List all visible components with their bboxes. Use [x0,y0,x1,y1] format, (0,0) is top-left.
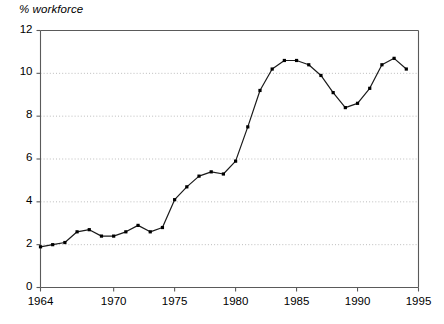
data-point-1988 [332,91,335,94]
y-tick-label-4: 4 [7,194,33,206]
data-point-1967 [75,230,78,233]
data-markers-group [39,57,408,249]
data-point-1987 [319,74,322,77]
y-tick-label-10: 10 [7,65,33,77]
chart-container: % workforce 024681012 196419701975198019… [0,0,444,324]
data-point-1972 [136,224,139,227]
data-point-1984 [283,59,286,62]
data-point-1990 [356,102,359,105]
data-point-1992 [380,63,383,66]
line-chart-plot [0,0,444,324]
data-point-1965 [51,243,54,246]
x-tick-label-1964: 1964 [17,295,65,307]
data-point-1974 [161,226,164,229]
data-point-1973 [149,230,152,233]
data-point-1994 [405,67,408,70]
series-line [41,58,407,246]
y-tick-label-0: 0 [7,280,33,292]
data-point-1975 [173,198,176,201]
data-point-1985 [295,59,298,62]
y-tick-label-8: 8 [7,108,33,120]
data-point-1989 [344,106,347,109]
x-tick-label-1985: 1985 [273,295,321,307]
data-point-1981 [246,125,249,128]
y-tick-label-2: 2 [7,237,33,249]
data-point-1969 [100,235,103,238]
data-point-1970 [112,235,115,238]
gridlines-group [41,73,419,244]
x-tick-label-1990: 1990 [334,295,382,307]
data-point-1976 [185,185,188,188]
x-tick-label-1980: 1980 [212,295,260,307]
data-point-1979 [222,172,225,175]
data-point-1977 [197,175,200,178]
axis-lines-group [37,31,419,292]
data-series-group [41,58,407,246]
data-point-1964 [39,245,42,248]
data-point-1980 [234,160,237,163]
data-point-1968 [88,228,91,231]
y-tick-label-12: 12 [7,23,33,35]
y-tick-label-6: 6 [7,151,33,163]
data-point-1993 [393,57,396,60]
x-tick-label-1970: 1970 [90,295,138,307]
data-point-1966 [63,241,66,244]
data-point-1983 [271,67,274,70]
x-tick-label-1975: 1975 [151,295,199,307]
data-point-1971 [124,230,127,233]
data-point-1982 [258,89,261,92]
data-point-1991 [368,87,371,90]
data-point-1986 [307,63,310,66]
x-tick-label-1995: 1995 [395,295,443,307]
data-point-1978 [210,170,213,173]
